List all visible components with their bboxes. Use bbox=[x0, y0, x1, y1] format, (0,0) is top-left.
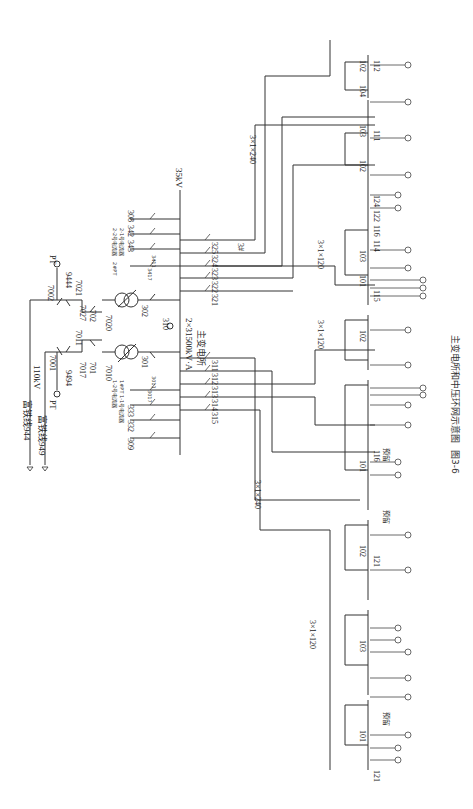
switch-7027: 7027 bbox=[78, 305, 87, 321]
switch-3011: 3011 bbox=[151, 376, 157, 389]
feeder-324: 324 bbox=[210, 255, 219, 267]
ring-bus-103: 103 bbox=[358, 125, 367, 137]
breaker-302: 302 bbox=[140, 305, 149, 317]
reserved-label: 预留 bbox=[382, 448, 391, 462]
cable-label: 3×1×240 bbox=[248, 135, 257, 164]
ring-feeder-112: 112 bbox=[372, 60, 381, 72]
feeder-312: 312 bbox=[210, 373, 219, 385]
figure-number: 图3-6 bbox=[450, 450, 460, 474]
voltage-110kv: 110kV bbox=[32, 365, 42, 390]
ring-feeder-111: 111 bbox=[372, 130, 381, 141]
feeder-342: 342 bbox=[126, 225, 135, 237]
ring-feeder-116: 116 bbox=[372, 225, 381, 237]
feeder-321: 321 bbox=[210, 294, 219, 306]
switch-3017: 3017 bbox=[147, 390, 153, 403]
ring-bus-102: 102 bbox=[358, 60, 367, 72]
feeder-323: 323 bbox=[210, 268, 219, 280]
switch-7021: 7021 bbox=[74, 280, 83, 296]
ring-bus-101: 101 bbox=[358, 730, 367, 742]
incoming-line-944: 富铁线944 bbox=[22, 400, 33, 441]
incoming-line-949: 富铁线949 bbox=[37, 415, 48, 456]
cable-label: 3×1×240 bbox=[253, 480, 262, 509]
bus-35kv bbox=[130, 190, 215, 455]
reserved-label: 预留 bbox=[382, 510, 391, 524]
feeder-322: 322 bbox=[210, 281, 219, 293]
feeder-333: 333 bbox=[126, 405, 135, 417]
ring-feeder-114: 114 bbox=[372, 240, 381, 252]
pt-label-1: PT bbox=[48, 400, 57, 409]
switch-3417: 3417 bbox=[147, 268, 153, 281]
switch-7011: 7011 bbox=[74, 330, 83, 346]
arrester-1-1: 1-1号电流器 bbox=[118, 395, 125, 423]
ring-units bbox=[345, 55, 426, 770]
ring-feeder-116: 116 bbox=[372, 450, 381, 462]
switch-701: 701 bbox=[88, 362, 97, 374]
labels: 富铁线944 富铁线949 110kV PT PT 7002 9444 7001… bbox=[22, 60, 461, 782]
ring-feeder-121: 121 bbox=[372, 555, 381, 567]
switch-9444: 9444 bbox=[64, 272, 73, 288]
ring-bus-102: 102 bbox=[358, 160, 367, 172]
feeder-314: 314 bbox=[210, 399, 219, 411]
cable-label: 3×1×120 bbox=[316, 320, 325, 349]
switch-702: 702 bbox=[88, 310, 97, 322]
cable-label: 3×1×120 bbox=[308, 620, 317, 649]
arrester-2-1: 2-1号电流器 bbox=[118, 228, 125, 256]
bus-voltage: 35kV bbox=[174, 168, 184, 189]
ring-bus-104: 104 bbox=[358, 85, 367, 97]
switch-7010: 7010 bbox=[104, 365, 113, 381]
ring-feeder-121: 121 bbox=[372, 770, 381, 782]
feeder-325: 325 bbox=[210, 242, 219, 254]
ring-feeder-124: 124 bbox=[372, 195, 381, 207]
switch-3411: 3411 bbox=[151, 255, 157, 268]
ring-feeder-122: 122 bbox=[372, 210, 381, 222]
bus-tie-310: 310 bbox=[161, 318, 170, 330]
substation-capacity: 2×31500kV·A bbox=[184, 318, 194, 371]
ring-bus-101: 101 bbox=[358, 460, 367, 472]
ring-bus-103: 103 bbox=[358, 640, 367, 652]
pt-2: 2#PT bbox=[112, 262, 118, 276]
switch-7020: 7020 bbox=[104, 315, 113, 331]
feeder-343: 343 bbox=[126, 240, 135, 252]
switch-7002: 7002 bbox=[46, 285, 55, 301]
figure-caption: 主变电所和中压环网示意图 bbox=[450, 335, 461, 443]
breaker-301: 301 bbox=[140, 356, 149, 368]
arrester-1-2: 1-2号电流器 bbox=[111, 380, 118, 408]
substation-name: 主变电所 bbox=[196, 330, 207, 366]
arrester-2-2: 2-2号电流器 bbox=[111, 228, 118, 256]
ring-bus-102: 102 bbox=[358, 330, 367, 342]
feeder-315: 315 bbox=[210, 412, 219, 424]
label-3-hash: 3# bbox=[236, 243, 245, 251]
feeder-332: 332 bbox=[126, 420, 135, 432]
pt-1: 1#PT bbox=[119, 380, 125, 394]
switch-7017: 7017 bbox=[78, 362, 87, 378]
single-line-diagram: 富铁线944 富铁线949 110kV PT PT 7002 9444 7001… bbox=[0, 0, 473, 809]
switch-9494: 9494 bbox=[64, 370, 73, 386]
ring-feeder-115: 115 bbox=[372, 290, 381, 302]
pt-label-2: PT bbox=[48, 255, 57, 264]
cable-label: 3×1×120 bbox=[316, 240, 325, 269]
diagram-canvas: 富铁线944 富铁线949 110kV PT PT 7002 9444 7001… bbox=[0, 0, 473, 809]
ring-bus-102: 102 bbox=[358, 545, 367, 557]
feeder-309: 309 bbox=[126, 438, 135, 450]
switch-7001: 7001 bbox=[48, 355, 57, 371]
cable-runs bbox=[215, 40, 375, 770]
feeder-313: 313 bbox=[210, 386, 219, 398]
ring-bus-103: 103 bbox=[358, 250, 367, 262]
reserved-label: 预留 bbox=[382, 712, 391, 726]
feeder-311: 311 bbox=[210, 360, 219, 372]
ring-bus-101: 101 bbox=[358, 275, 367, 287]
feeder-308: 308 bbox=[126, 210, 135, 222]
